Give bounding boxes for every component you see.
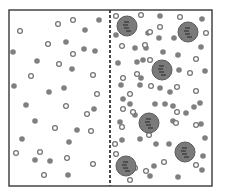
macromolecule-body bbox=[117, 16, 137, 36]
solute-particle-icon bbox=[167, 89, 173, 95]
solute-particle-icon bbox=[11, 83, 17, 89]
solvent-particle-icon bbox=[71, 18, 76, 23]
solvent-particle-icon bbox=[135, 72, 140, 77]
solvent-particle-icon bbox=[144, 169, 149, 174]
solvent-particle-icon bbox=[120, 44, 125, 49]
solvent-particle-icon bbox=[175, 85, 180, 90]
solvent-particle-icon bbox=[91, 73, 96, 78]
solvent-particle-icon bbox=[89, 129, 94, 134]
solvent-particle-icon bbox=[148, 58, 153, 63]
solute-particle-icon bbox=[19, 136, 25, 142]
solvent-particle-icon bbox=[114, 152, 119, 157]
macromolecule-icon bbox=[117, 16, 137, 36]
solute-particle-icon bbox=[147, 173, 153, 179]
macromolecule-body bbox=[152, 60, 172, 80]
solute-particle-icon bbox=[202, 68, 208, 74]
solute-particle-icon bbox=[175, 174, 181, 180]
solute-particle-icon bbox=[152, 101, 158, 107]
solute-particle-icon bbox=[202, 135, 208, 141]
solvent-particle-icon bbox=[121, 107, 126, 112]
solvent-particle-icon bbox=[120, 125, 125, 130]
solute-particle-icon bbox=[10, 49, 16, 55]
solvent-particle-icon bbox=[56, 22, 61, 27]
solvent-particle-icon bbox=[114, 14, 119, 19]
solvent-particle-icon bbox=[42, 173, 47, 178]
solute-particle-icon bbox=[81, 46, 87, 52]
solute-particle-icon bbox=[140, 57, 146, 63]
solute-particle-icon bbox=[200, 153, 206, 159]
solvent-particle-icon bbox=[85, 112, 90, 117]
solvent-particle-icon bbox=[204, 31, 209, 36]
solute-particle-icon bbox=[191, 104, 197, 110]
solvent-particle-icon bbox=[131, 110, 136, 115]
solvent-particle-icon bbox=[29, 74, 34, 79]
solute-particle-icon bbox=[176, 67, 182, 73]
solute-particle-icon bbox=[23, 102, 29, 108]
solvent-particle-icon bbox=[178, 15, 183, 20]
solute-particle-icon bbox=[113, 32, 119, 38]
solvent-particle-icon bbox=[149, 84, 154, 89]
solvent-particle-icon bbox=[65, 156, 70, 161]
solute-particle-icon bbox=[92, 48, 98, 54]
solvent-particle-icon bbox=[194, 163, 199, 168]
solute-particle-icon bbox=[134, 59, 140, 65]
solute-particle-icon bbox=[120, 96, 126, 102]
solute-particle-icon bbox=[153, 141, 159, 147]
solvent-particle-icon bbox=[53, 126, 58, 131]
solvent-particle-icon bbox=[18, 29, 23, 34]
solute-particle-icon bbox=[132, 45, 138, 51]
solute-particle-icon bbox=[32, 118, 38, 124]
solute-particle-icon bbox=[65, 172, 71, 178]
solute-particle-icon bbox=[47, 158, 53, 164]
solute-particle-icon bbox=[32, 157, 38, 163]
macromolecule-icon bbox=[175, 142, 195, 162]
solute-particle-icon bbox=[198, 44, 204, 50]
solute-particle-icon bbox=[175, 52, 181, 58]
solvent-particle-icon bbox=[158, 25, 163, 30]
solute-particle-icon bbox=[127, 101, 133, 107]
diagram-canvas bbox=[0, 0, 225, 193]
solute-particle-icon bbox=[96, 17, 102, 23]
solute-particle-icon bbox=[82, 27, 88, 33]
solute-particle-icon bbox=[160, 49, 166, 55]
solvent-particle-icon bbox=[14, 151, 19, 156]
solvent-particle-icon bbox=[91, 162, 96, 167]
solute-particle-icon bbox=[69, 66, 75, 72]
solute-particle-icon bbox=[61, 85, 67, 91]
solvent-particle-icon bbox=[57, 62, 62, 67]
macromolecule-body bbox=[175, 142, 195, 162]
solvent-particle-icon bbox=[162, 160, 167, 165]
solute-particle-icon bbox=[157, 85, 163, 91]
solute-particle-icon bbox=[119, 137, 125, 143]
solvent-particle-icon bbox=[38, 150, 43, 155]
osmosis-diagram bbox=[0, 0, 225, 193]
macromolecule-icon bbox=[139, 113, 159, 133]
solute-particle-icon bbox=[199, 16, 205, 22]
macromolecule-body bbox=[139, 113, 159, 133]
solvent-particle-icon bbox=[113, 142, 118, 147]
solute-particle-icon bbox=[157, 13, 163, 19]
solute-particle-icon bbox=[46, 89, 52, 95]
solute-particle-icon bbox=[162, 101, 168, 107]
solute-particle-icon bbox=[66, 139, 72, 145]
solvent-particle-icon bbox=[64, 104, 69, 109]
macromolecule-icon bbox=[116, 156, 136, 176]
solute-particle-icon bbox=[91, 106, 97, 112]
solute-particle-icon bbox=[199, 167, 205, 173]
macromolecule-body bbox=[116, 156, 136, 176]
solute-particle-icon bbox=[166, 141, 172, 147]
solute-particle-icon bbox=[197, 100, 203, 106]
solvent-particle-icon bbox=[95, 92, 100, 97]
solvent-particle-icon bbox=[46, 42, 51, 47]
solvent-particle-icon bbox=[194, 57, 199, 62]
solute-particle-icon bbox=[74, 127, 80, 133]
solvent-particle-icon bbox=[143, 43, 148, 48]
solute-particle-icon bbox=[198, 121, 204, 127]
solute-particle-icon bbox=[118, 82, 124, 88]
macromolecule-icon bbox=[152, 60, 172, 80]
solvent-particle-icon bbox=[194, 123, 199, 128]
solute-particle-icon bbox=[137, 82, 143, 88]
solute-particle-icon bbox=[151, 163, 157, 169]
solute-particle-icon bbox=[63, 39, 69, 45]
solvent-particle-icon bbox=[188, 71, 193, 76]
